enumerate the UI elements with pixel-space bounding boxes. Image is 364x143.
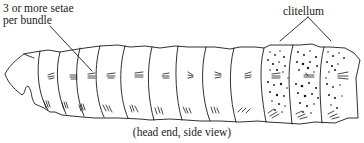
clitellum-stippling bbox=[267, 50, 345, 114]
segment-boundary bbox=[230, 48, 236, 122]
setae-leader-line bbox=[50, 26, 92, 71]
clitellum-boundary bbox=[289, 45, 293, 124]
segment-boundary bbox=[203, 47, 210, 121]
worm-illustration bbox=[0, 0, 364, 143]
clitellum-leader-left bbox=[280, 17, 308, 41]
segment-boundary bbox=[38, 51, 48, 110]
segment-boundary bbox=[176, 46, 182, 120]
clitellum-boundary bbox=[261, 48, 266, 122]
setae-bundles-ventral bbox=[44, 101, 339, 119]
clitellum-leader-right bbox=[308, 17, 331, 41]
segment-boundary bbox=[96, 46, 104, 117]
clitellum-boundary bbox=[320, 47, 324, 123]
setae-bundles-dorsal bbox=[48, 72, 348, 79]
segment-boundary bbox=[121, 46, 128, 118]
segment-boundary bbox=[148, 47, 154, 120]
head-fold bbox=[24, 54, 34, 58]
